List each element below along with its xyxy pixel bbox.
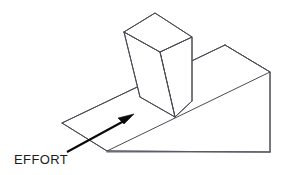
diagram-canvas: EFFORT bbox=[0, 0, 285, 175]
effort-label: EFFORT bbox=[14, 152, 68, 167]
inclined-plane-diagram: EFFORT bbox=[0, 0, 285, 175]
